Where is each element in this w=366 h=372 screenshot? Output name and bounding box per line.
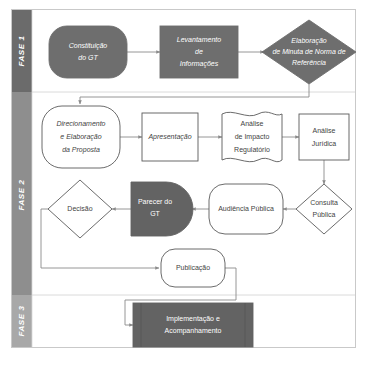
node-label-consulta-line-1: Pública <box>313 211 336 218</box>
node-label-analise-impacto-line-2: Regulatório <box>234 146 270 154</box>
flowchart-diagram: FASE 1 FASE 2 FASE 3 <box>0 0 366 372</box>
node-consulta-publica[interactable]: Consulta Pública <box>296 184 352 234</box>
node-label-apresentacao: Apresentação <box>147 133 191 141</box>
node-label-parecer-line-1: GT <box>150 210 160 217</box>
node-label-analise-juridica-line-0: Análise <box>313 127 336 134</box>
phase-label-fase-2: FASE 2 <box>17 179 26 210</box>
phase-band-fase-1: FASE 1 <box>12 10 32 92</box>
node-label-levantamento-line-0: Levantamento <box>177 36 221 43</box>
node-parecer-do-gt[interactable]: Parecer do GT <box>131 182 193 236</box>
node-label-constituicao-line-1: do GT <box>78 54 98 61</box>
node-analise-juridica[interactable]: Análise Jurídica <box>299 114 349 160</box>
node-decisao[interactable]: Decisão <box>48 180 112 238</box>
node-label-elaboracao-line-0: Elaboração <box>291 37 327 45</box>
node-label-analise-impacto-line-1: de Impacto <box>235 133 270 141</box>
node-label-direcionamento-line-2: da Proposta <box>62 146 100 154</box>
phase-band-fase-2: FASE 2 <box>12 92 32 295</box>
flowchart-canvas: FASE 1 FASE 2 FASE 3 <box>0 0 366 372</box>
node-label-implementacao-line-1: Acompanhamento <box>165 327 222 335</box>
node-label-levantamento-line-2: Informações <box>180 60 219 68</box>
node-label-elaboracao-line-1: de Minuta de Norma de <box>272 48 345 55</box>
node-label-analise-impacto-line-0: Análise <box>241 120 264 127</box>
node-apresentacao[interactable]: Apresentação <box>142 113 198 161</box>
node-label-decisao: Decisão <box>67 205 92 212</box>
node-label-parecer-line-0: Parecer do <box>138 198 172 205</box>
node-constituicao-do-gt[interactable]: Constituição do GT <box>49 26 127 78</box>
node-levantamento-de-informacoes[interactable]: Levantamento de Informações <box>160 26 238 78</box>
phase-label-fase-1: FASE 1 <box>17 35 26 66</box>
node-analise-de-impacto-regulatorio[interactable]: Análise de Impacto Regulatório <box>222 112 282 162</box>
node-publicacao[interactable]: Publicação <box>161 249 225 287</box>
node-audiencia-publica[interactable]: Audiência Pública <box>209 184 283 234</box>
node-implementacao-e-acompanhamento[interactable]: Implementação e Acompanhamento <box>133 303 253 347</box>
node-label-direcionamento-line-1: e Elaboração <box>60 133 101 141</box>
node-label-audiencia: Audiência Pública <box>218 205 274 212</box>
edge-elaboracao-to-direcionamento <box>80 84 309 104</box>
node-direcionamento-e-elaboracao-da-proposta[interactable]: Direcionamento e Elaboração da Proposta <box>42 106 120 168</box>
node-label-implementacao-line-0: Implementação e <box>166 315 220 323</box>
node-label-levantamento-line-1: de <box>195 48 203 55</box>
node-label-publicacao: Publicação <box>176 264 210 272</box>
node-label-consulta-line-0: Consulta <box>310 199 338 206</box>
node-label-analise-juridica-line-1: Jurídica <box>312 140 337 147</box>
node-label-elaboracao-line-2: Referência <box>292 59 326 66</box>
node-label-constituicao-line-0: Constituição <box>69 42 108 50</box>
node-label-direcionamento-line-0: Direcionamento <box>56 120 105 127</box>
phase-band-fase-3: FASE 3 <box>12 295 32 347</box>
phase-label-fase-3: FASE 3 <box>17 305 26 336</box>
node-elaboracao-de-minuta[interactable]: Elaboração de Minuta de Norma de Referên… <box>262 20 356 84</box>
